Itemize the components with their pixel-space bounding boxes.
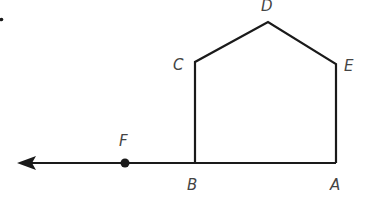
stray-dot bbox=[0, 18, 3, 22]
point-f-dot bbox=[121, 159, 130, 168]
label-b: B bbox=[187, 176, 197, 194]
label-f: F bbox=[119, 132, 128, 150]
label-a: A bbox=[329, 176, 340, 194]
pentagon-abcde bbox=[195, 22, 336, 163]
label-d: D bbox=[261, 0, 273, 15]
label-c: C bbox=[173, 56, 184, 74]
geometry-diagram: D C E F B A bbox=[0, 0, 371, 198]
label-e: E bbox=[344, 57, 354, 75]
